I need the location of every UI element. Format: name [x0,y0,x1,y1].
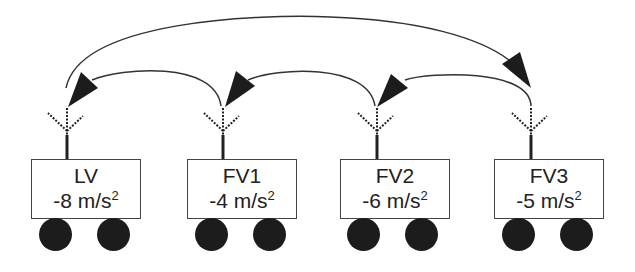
vehicle-fv3: FV3 -5 m/s2 [494,159,604,219]
link-fv3-to-fv2 [405,75,531,106]
arrowhead-fv2-icon [377,74,408,107]
wheel-icon [195,218,228,251]
vehicle-label: LV [32,164,140,188]
antenna-fv3 [512,108,547,159]
vehicle-lv: LV -8 m/s2 [31,159,141,219]
vehicle-fv1: FV1 -4 m/s2 [187,159,297,219]
vehicle-fv2: FV2 -6 m/s2 [340,159,450,219]
platoon-diagram [0,0,635,272]
vehicle-acceleration: -4 m/s2 [188,188,296,214]
wheel-icon [405,218,438,251]
vehicle-acceleration: -6 m/s2 [341,188,449,214]
link-lv-to-fv3 [66,16,509,88]
wheel-icon [39,218,72,251]
antenna-lv [48,108,83,159]
arrowhead-lv-icon [68,72,98,107]
wheel-icon [347,218,380,251]
antenna-fv2 [358,108,393,159]
wheel-icon [502,218,535,251]
vehicle-acceleration: -5 m/s2 [495,188,603,214]
vehicle-label: FV3 [495,164,603,188]
vehicle-label: FV2 [341,164,449,188]
wheel-icon [560,218,593,251]
antenna-fv1 [204,108,239,159]
wheel-icon [253,218,286,251]
link-fv1-to-lv [92,71,221,106]
vehicle-label: FV1 [188,164,296,188]
arrowhead-fv1-icon [225,71,255,107]
wheel-icon [97,218,130,251]
vehicle-acceleration: -8 m/s2 [32,188,140,214]
link-fv2-to-fv1 [248,71,375,106]
